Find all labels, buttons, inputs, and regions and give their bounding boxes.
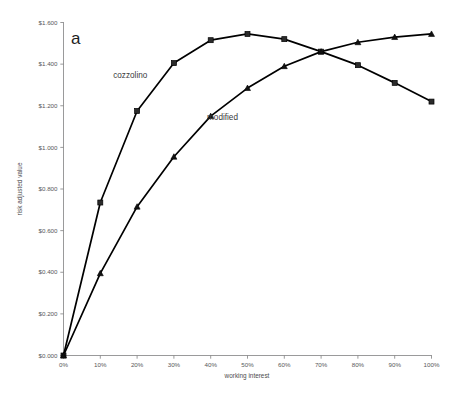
data-point-cozzolino: [208, 38, 213, 43]
y-tick-label: $1.400: [39, 60, 58, 67]
y-tick-label: $1.200: [39, 102, 58, 109]
series-line-modified: [64, 34, 432, 356]
chart-figure: $0.000$0.200$0.400$0.600$0.800$1.000$1.2…: [0, 0, 458, 396]
x-tick-label: 50%: [241, 361, 254, 368]
x-tick-label: 90%: [389, 361, 402, 368]
y-tick-label: $0.000: [39, 352, 58, 359]
x-tick-label: 20%: [131, 361, 144, 368]
series-line-cozzolino: [64, 34, 432, 356]
data-point-cozzolino: [245, 31, 250, 36]
series-markers-group: [61, 31, 435, 358]
data-point-cozzolino: [135, 108, 140, 113]
line-chart-svg: $0.000$0.200$0.400$0.600$0.800$1.000$1.2…: [0, 0, 458, 396]
y-axis-title: risk adjusted value: [16, 162, 24, 215]
data-point-cozzolino: [429, 99, 434, 104]
x-axis-title: working interest: [224, 372, 270, 380]
y-tick-label: $0.600: [39, 227, 58, 234]
y-tick-label: $0.800: [39, 185, 58, 192]
x-axis-tick-labels: 0%10%20%30%40%50%60%70%80%90%100%: [59, 361, 440, 368]
series-lines-group: [64, 34, 432, 356]
data-point-cozzolino: [392, 80, 397, 85]
data-point-cozzolino: [98, 200, 103, 205]
series-label-modified: modified: [207, 113, 238, 122]
data-point-cozzolino: [171, 61, 176, 66]
x-tick-label: 0%: [59, 361, 68, 368]
x-tick-label: 70%: [315, 361, 328, 368]
x-tick-label: 10%: [94, 361, 107, 368]
data-point-cozzolino: [355, 63, 360, 68]
x-tick-label: 80%: [352, 361, 365, 368]
y-tick-label: $1.000: [39, 144, 58, 151]
x-tick-label: 30%: [168, 361, 181, 368]
y-axis-tick-labels: $0.000$0.200$0.400$0.600$0.800$1.000$1.2…: [39, 19, 58, 359]
x-tick-label: 40%: [205, 361, 218, 368]
x-tick-label: 60%: [278, 361, 291, 368]
y-tick-label: $0.400: [39, 268, 58, 275]
data-point-cozzolino: [282, 37, 287, 42]
x-tick-label: 100%: [424, 361, 440, 368]
y-tick-label: $0.200: [39, 310, 58, 317]
y-tick-label: $1.600: [39, 19, 58, 26]
panel-letter: a: [71, 29, 81, 48]
series-label-cozzolino: cozzolino: [113, 71, 148, 80]
